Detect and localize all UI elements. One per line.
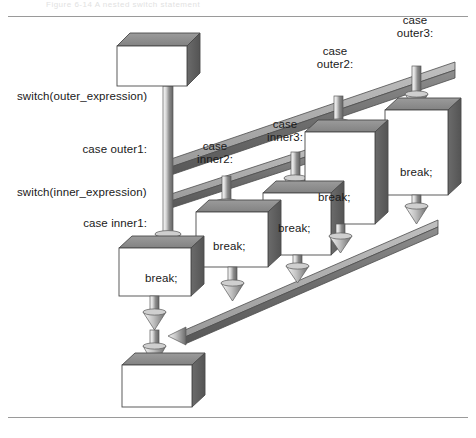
- label-case-inner3-line1: case: [255, 118, 315, 131]
- box-label-inner1-break: break;: [145, 272, 178, 284]
- label-switch-outer-expression: switch(outer_expression): [17, 90, 147, 103]
- figure-canvas: Figure 6-14 A nested switch statement: [0, 0, 476, 438]
- label-case-inner2-line2: inner2:: [185, 153, 245, 166]
- label-case-outer2-line1: case: [304, 45, 366, 58]
- inner1-break-exit-arrow: [143, 296, 166, 330]
- label-case-inner3-line2: inner3:: [255, 131, 315, 144]
- label-switch-inner-expression: switch(inner_expression): [17, 186, 147, 199]
- box-label-inner3-break: break;: [278, 222, 311, 234]
- outer3-break-exit-arrow: [405, 195, 428, 224]
- label-case-outer3-line2: outer3:: [383, 27, 447, 40]
- box-label-outer2-break: break;: [318, 191, 351, 203]
- label-case-inner1: case inner1:: [22, 217, 147, 230]
- inner2-break-box: [196, 200, 281, 267]
- label-case-inner2-line1: case: [185, 140, 245, 153]
- box-label-inner2-break: break;: [213, 240, 246, 252]
- label-case-outer3-line1: case: [383, 14, 447, 27]
- outer3-break-box: [385, 98, 461, 195]
- exit-box: [122, 353, 205, 407]
- label-case-outer2-line2: outer2:: [304, 58, 366, 71]
- outer-switch-box: [117, 33, 200, 86]
- box-label-outer3-break: break;: [400, 166, 433, 178]
- inner2-break-exit-arrow: [221, 267, 244, 301]
- label-case-outer1: case outer1:: [20, 143, 147, 156]
- inner1-break-box: [119, 236, 204, 296]
